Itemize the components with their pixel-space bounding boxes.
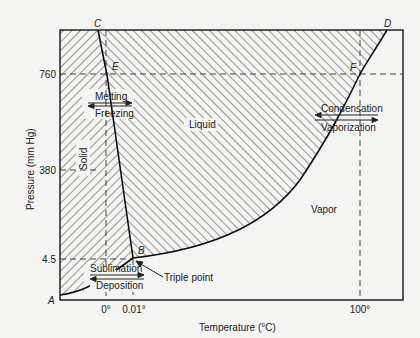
x-axis-title: Temperature (°C) xyxy=(199,322,276,333)
triple-point-label: Triple point xyxy=(164,272,213,283)
point-a-label: A xyxy=(47,295,55,306)
solid-label: Solid xyxy=(78,148,89,170)
vapor-label: Vapor xyxy=(311,204,338,215)
y-tick-760: 760 xyxy=(39,69,56,80)
sublimation-label: Sublimation xyxy=(90,263,142,274)
point-e-label: E xyxy=(112,61,119,72)
y-tick-380: 380 xyxy=(39,165,56,176)
phase-diagram: C E D F B A Liquid Vapor Solid Melting F… xyxy=(0,0,420,338)
melting-label: Melting xyxy=(95,91,127,102)
condensation-label: Condensation xyxy=(321,103,383,114)
liquid-region xyxy=(98,30,387,258)
x-tick-0-01: 0.01° xyxy=(122,304,145,315)
deposition-label: Deposition xyxy=(96,280,143,291)
liquid-label: Liquid xyxy=(189,119,216,130)
y-axis-title: Pressure (mm Hg) xyxy=(25,128,36,210)
x-tick-0: 0° xyxy=(101,304,111,315)
x-tick-100: 100° xyxy=(350,304,371,315)
y-tick-4-5: 4.5 xyxy=(42,254,56,265)
point-d-label: D xyxy=(384,18,391,29)
point-b-label: B xyxy=(138,245,145,256)
freezing-label: Freezing xyxy=(95,108,134,119)
point-f-label: F xyxy=(350,62,357,73)
point-c-label: C xyxy=(94,18,102,29)
vaporization-label: Vaporization xyxy=(321,122,376,133)
